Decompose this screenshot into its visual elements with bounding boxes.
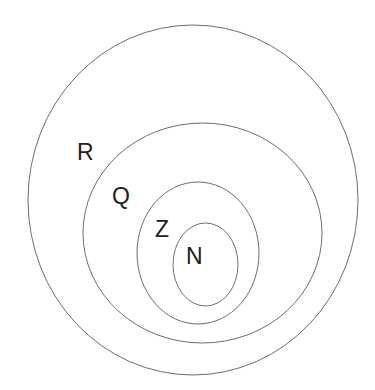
set-r-boundary: [28, 25, 358, 375]
set-z-label: Z: [155, 218, 169, 241]
nested-set-diagram: [0, 0, 375, 390]
set-n-label: N: [186, 245, 203, 268]
set-q-boundary: [83, 123, 322, 343]
set-q-label: Q: [112, 185, 130, 208]
set-r-label: R: [77, 141, 94, 164]
set-n-boundary: [173, 223, 238, 306]
